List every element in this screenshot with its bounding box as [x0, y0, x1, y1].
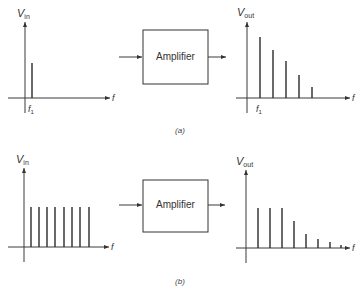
panel-a: Vin f f1 Amplifier Vout f f1 (a) [8, 6, 356, 135]
input-spectrum-b: Vin f [8, 153, 115, 262]
y-axis-label: Vout [237, 6, 254, 19]
x-axis-label: f [112, 93, 116, 103]
panel-caption-a: (a) [175, 126, 185, 135]
x-axis-label: f [352, 243, 356, 253]
y-axis-label: Vin [17, 7, 30, 20]
panel-caption-b: (b) [175, 277, 185, 286]
amplifier-block-b: Amplifier [119, 180, 225, 232]
amplifier-frequency-diagram: Vin f f1 Amplifier Vout f f1 (a) [0, 0, 363, 289]
amplifier-label: Amplifier [156, 51, 196, 62]
panel-b: Vin f Amplifier Vout f [8, 153, 356, 286]
input-spectrum-a: Vin f f1 [8, 7, 116, 115]
amplifier-block-a: Amplifier [119, 30, 226, 84]
y-axis-label: Vin [16, 153, 29, 166]
x-axis-label: f [111, 242, 115, 252]
output-spectrum-a: Vout f f1 [236, 6, 356, 115]
x-axis-label: f [352, 93, 356, 103]
tick-label-f1: f1 [28, 104, 35, 115]
output-spectrum-b: Vout f [236, 155, 356, 263]
y-axis-label: Vout [236, 155, 253, 168]
amplifier-label: Amplifier [156, 199, 196, 210]
tick-label-f1: f1 [256, 104, 263, 115]
